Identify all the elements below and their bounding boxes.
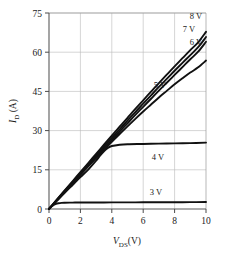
curve-label-7v: 7 V	[183, 24, 196, 34]
y-axis-title: ID (A)	[8, 99, 21, 124]
x-axis-tick-labels: 0 2 4 6 8 10	[47, 216, 211, 226]
y-tick-label-0: 0	[37, 205, 42, 215]
y-tick-label-75: 75	[33, 9, 43, 19]
x-tick-label-4: 4	[109, 216, 114, 226]
x-axis-tickmarks	[49, 209, 206, 213]
x-axis-title-unit: (V)	[128, 236, 141, 247]
svg-text:VDS(V): VDS(V)	[113, 236, 141, 249]
curve-label-4v: 4 V	[152, 152, 165, 162]
curve-label-6v: 6 V	[190, 37, 203, 47]
figure-container: 0 15 30 45 60 75 0 2 4 6 8 10 8 V	[0, 0, 250, 265]
x-tick-label-2: 2	[78, 216, 83, 226]
curve-label-5v: 5 V	[154, 80, 167, 90]
y-axis-tickmarks	[45, 13, 49, 209]
x-tick-label-6: 6	[141, 216, 146, 226]
y-tick-label-60: 60	[33, 48, 43, 58]
mosfet-output-characteristics-chart: 0 15 30 45 60 75 0 2 4 6 8 10 8 V	[0, 0, 250, 265]
x-tick-label-8: 8	[172, 216, 177, 226]
y-axis-title-unit: (A)	[8, 99, 19, 115]
x-tick-label-10: 10	[201, 216, 211, 226]
y-tick-label-15: 15	[33, 165, 43, 175]
plot-background	[49, 13, 206, 209]
x-tick-label-0: 0	[47, 216, 52, 226]
curve-label-3v: 3 V	[150, 187, 163, 197]
x-axis-title: VDS(V)	[113, 236, 141, 249]
svg-text:ID (A): ID (A)	[8, 99, 21, 124]
y-tick-label-30: 30	[33, 126, 43, 136]
y-tick-label-45: 45	[33, 87, 43, 97]
y-axis-tick-labels: 0 15 30 45 60 75	[33, 9, 43, 215]
x-axis-title-sub: DS	[119, 241, 128, 249]
curve-label-8v: 8 V	[190, 11, 203, 21]
